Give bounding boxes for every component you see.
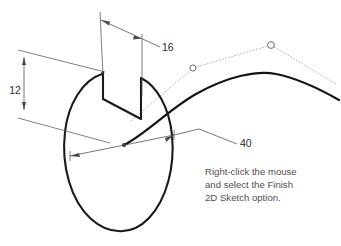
spline-control-point-2[interactable]: [268, 42, 275, 49]
instruction-note-line-1: Right-click the mouse: [205, 166, 297, 177]
instruction-note-line-3: 2D Sketch option.: [205, 192, 281, 203]
dim-16-extension-left: [100, 12, 103, 75]
dim-16-arrowhead-right: [133, 36, 142, 40]
spline-control-point-1[interactable]: [190, 65, 196, 71]
dim-40-arrowhead-left: [70, 153, 80, 157]
dimension-40-group: 40: [70, 129, 252, 161]
instruction-note-line-2: and select the Finish: [205, 179, 293, 190]
dim-16-label: 16: [162, 41, 174, 53]
instruction-note-group: Right-click the mouse and select the Fin…: [205, 166, 297, 203]
disc-profile-group: [64, 72, 172, 231]
dim-16-arrowhead-left: [101, 20, 110, 26]
keyway-notch-outline: [102, 72, 141, 119]
disc-outline-left-arc: [64, 74, 172, 231]
dim-12-label: 12: [9, 84, 21, 96]
dim-40-label: 40: [240, 137, 252, 149]
dimension-12-group: 12: [9, 50, 110, 143]
dimension-16-group: 16: [100, 12, 174, 96]
sweep-path-spline: [124, 73, 339, 145]
dim-12-extension-top: [18, 50, 105, 72]
dim-12-arrowhead-bottom: [22, 102, 26, 110]
dim-12-arrowhead-top: [22, 57, 26, 65]
dim-40-leader-line: [174, 129, 237, 144]
dim-40-dimension-line: [70, 135, 174, 156]
technical-drawing-svg: 16 12 40 Right-click t: [0, 0, 341, 246]
sweep-path-spline-group: [124, 73, 339, 145]
drawing-canvas: 16 12 40 Right-click t: [0, 0, 341, 246]
dim-16-dimension-line: [101, 20, 160, 47]
